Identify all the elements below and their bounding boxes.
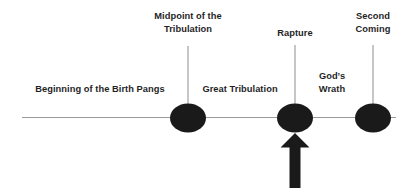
rapture-emphasis-arrow	[281, 133, 310, 188]
arrow-up-icon	[281, 133, 310, 188]
leader-line-second-coming	[373, 45, 374, 105]
event-marker-rapture[interactable]	[277, 104, 313, 133]
period-label-great-tribulation: Great Tribulation	[185, 83, 295, 96]
event-label-midpoint: Midpoint of the Tribulation	[118, 10, 258, 35]
event-label-rapture: Rapture	[255, 27, 335, 40]
leader-line-rapture	[295, 45, 296, 105]
timeline-axis	[22, 117, 396, 118]
event-label-second-coming: Second Coming	[338, 10, 408, 35]
timeline-diagram: Midpoint of the Tribulation Rapture Seco…	[0, 0, 410, 193]
event-marker-second-coming[interactable]	[355, 104, 391, 133]
leader-line-midpoint	[188, 46, 189, 105]
period-label-gods-wrath: God’s Wrath	[302, 70, 362, 95]
event-marker-midpoint[interactable]	[170, 104, 206, 133]
period-label-birth-pangs: Beginning of the Birth Pangs	[15, 83, 185, 96]
